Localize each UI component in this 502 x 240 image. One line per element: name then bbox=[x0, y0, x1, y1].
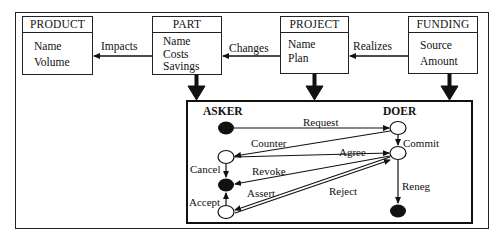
transition-label-revoke: Revoke bbox=[252, 165, 286, 177]
relationship-label-realizes: Realizes bbox=[353, 40, 392, 52]
transition-label-commit: Commit bbox=[403, 137, 439, 149]
state-asker-accept bbox=[218, 206, 234, 219]
transition-label-reject: Reject bbox=[329, 185, 357, 197]
transition-label-request: Request bbox=[303, 116, 338, 128]
transition-label-cancel: Cancel bbox=[190, 163, 221, 175]
state-asker-counter bbox=[218, 151, 234, 164]
state-asker-end bbox=[218, 179, 234, 192]
relationship-label-changes: Changes bbox=[229, 42, 269, 54]
role-asker: ASKER bbox=[203, 105, 243, 117]
transition-label-counter: Counter bbox=[251, 137, 286, 149]
transition-label-assert: Assert bbox=[247, 187, 275, 199]
transition-label-accept: Accept bbox=[189, 196, 220, 208]
transition-label-reneg: Reneg bbox=[402, 180, 430, 192]
role-doer: DOER bbox=[383, 105, 416, 117]
arrows-layer bbox=[0, 0, 502, 240]
state-doer-request bbox=[390, 122, 406, 135]
relationship-label-impacts: Impacts bbox=[101, 40, 137, 52]
state-asker-start bbox=[218, 122, 234, 135]
down-arrows bbox=[188, 74, 458, 100]
state-doer-end bbox=[390, 205, 406, 218]
transition-label-agree: Agree bbox=[339, 146, 366, 158]
